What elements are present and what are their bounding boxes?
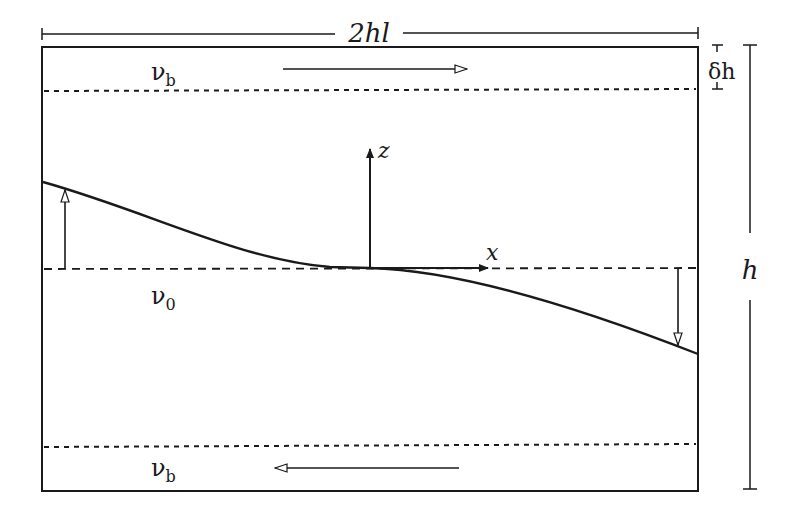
height-label: h bbox=[742, 255, 759, 285]
bottom-layer-boundary bbox=[44, 444, 696, 447]
width-label: 2hl bbox=[347, 18, 390, 48]
top-layer-boundary bbox=[44, 89, 696, 91]
shear-flow-diagram: 2hl νb ν0 νb z x δh bbox=[0, 0, 791, 519]
boundary-thickness-label: δh bbox=[708, 59, 735, 84]
bottom-layer-label: νb bbox=[151, 454, 176, 486]
top-layer-label: νb bbox=[151, 58, 176, 90]
z-axis-label: z bbox=[377, 138, 390, 163]
x-axis-label: x bbox=[486, 240, 499, 265]
height-dimension: h bbox=[742, 45, 759, 489]
middle-layer-label: ν0 bbox=[151, 282, 176, 314]
boundary-thickness-dimension: δh bbox=[708, 45, 735, 89]
width-dimension: 2hl bbox=[42, 18, 698, 48]
